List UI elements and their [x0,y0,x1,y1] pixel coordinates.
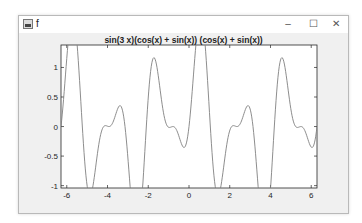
y-tick-label: 1 [54,63,59,72]
y-tick-label: 0 [54,123,59,132]
x-tick-label: -2 [145,191,153,200]
x-tick-label: -6 [63,191,71,200]
y-tick-label: -0.5 [44,152,58,161]
x-tick-label: 2 [228,191,233,200]
plot-area [61,45,317,188]
x-tick-label: -4 [104,191,112,200]
x-tick-label: 6 [309,191,314,200]
y-tick-label: -1 [51,182,59,191]
x-tick-label: 4 [268,191,273,200]
plot-axes[interactable]: -6-4-20246-1-0.500.51 [0,0,362,223]
x-tick-label: 0 [187,191,192,200]
y-tick-label: 0.5 [47,93,59,102]
